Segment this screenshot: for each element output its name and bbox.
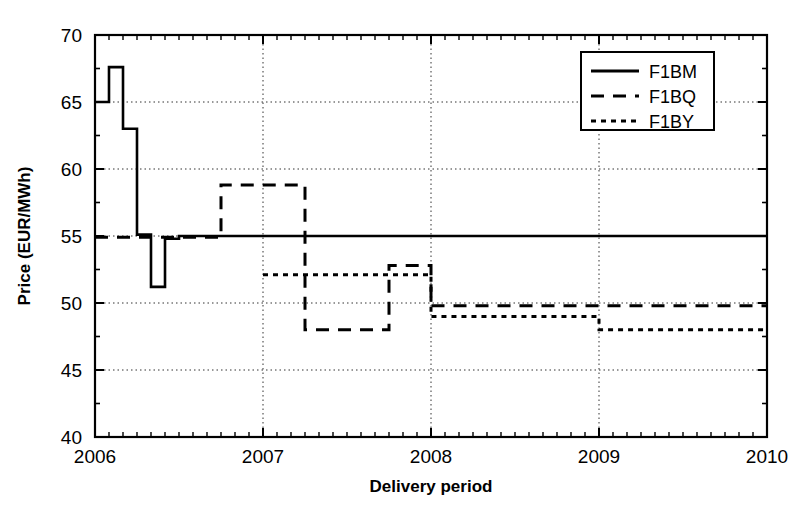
- legend-label-f1bm: F1BM: [649, 62, 697, 82]
- x-axis-tick-label: 2010: [746, 446, 788, 467]
- x-axis-label: Delivery period: [370, 477, 493, 496]
- y-axis-tick-label: 70: [61, 25, 82, 46]
- x-axis-tick-label: 2008: [410, 446, 452, 467]
- x-axis-tick-label: 2007: [242, 446, 284, 467]
- y-axis-tick-label: 50: [61, 293, 82, 314]
- chart-figure: 4045505560657020062007200820092010Price …: [0, 0, 798, 525]
- y-axis-tick-label: 60: [61, 159, 82, 180]
- legend-label-f1by: F1BY: [649, 112, 694, 132]
- x-axis-tick-label: 2006: [74, 446, 116, 467]
- y-axis-tick-label: 40: [61, 427, 82, 448]
- legend-label-f1bq: F1BQ: [649, 87, 696, 107]
- y-axis-tick-label: 65: [61, 92, 82, 113]
- y-axis-label: Price (EUR/MWh): [15, 167, 34, 306]
- x-axis-tick-label: 2009: [578, 446, 620, 467]
- chart-canvas: 4045505560657020062007200820092010Price …: [0, 0, 798, 525]
- y-axis-tick-label: 55: [61, 226, 82, 247]
- y-axis-tick-label: 45: [61, 360, 82, 381]
- series-line-f1by: [263, 275, 767, 330]
